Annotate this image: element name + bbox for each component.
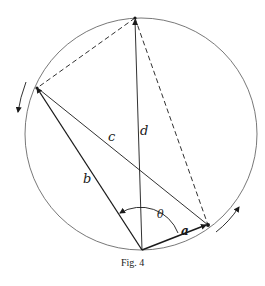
label-theta: θ xyxy=(157,208,164,221)
point-left xyxy=(35,86,38,89)
line-b xyxy=(37,88,142,250)
label-b: b xyxy=(83,171,91,186)
label-c: c xyxy=(108,129,116,144)
figure-caption: Fig. 4 xyxy=(121,257,144,268)
point-top xyxy=(133,16,136,19)
rotation-arrow-left-icon xyxy=(18,82,26,112)
label-d: d xyxy=(140,123,148,138)
line-c xyxy=(40,90,208,225)
line-a xyxy=(142,225,206,250)
label-a: a xyxy=(181,224,189,238)
dashed-line-top-left xyxy=(37,18,135,88)
diagram-figure: c d b θ a Fig. 4 xyxy=(0,0,265,286)
dashed-line-top-right xyxy=(135,18,208,225)
point-right xyxy=(206,223,210,227)
